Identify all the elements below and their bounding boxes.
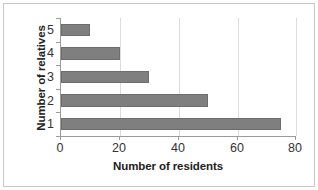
y-tick-label: 5 <box>40 18 57 42</box>
x-tick-label: 0 <box>40 141 80 155</box>
bar-band-3 <box>61 65 296 89</box>
y-tick-label: 1 <box>40 112 57 136</box>
x-tick-label: 40 <box>158 141 198 155</box>
x-tick-mark-0 <box>60 136 61 140</box>
bar-band-4 <box>61 42 296 66</box>
bar-category-2 <box>61 94 208 106</box>
bar-band-1 <box>61 112 296 136</box>
bar-series <box>61 18 296 136</box>
bar-band-2 <box>61 89 296 113</box>
y-tick-label: 4 <box>40 42 57 66</box>
bar-category-5 <box>61 24 90 36</box>
gridline-80 <box>296 18 297 136</box>
x-tick-label: 20 <box>99 141 139 155</box>
x-axis-title: Number of residents <box>40 160 296 172</box>
bar-category-4 <box>61 47 120 59</box>
x-tick-mark-20 <box>119 136 120 140</box>
x-tick-mark-80 <box>295 136 296 140</box>
x-tick-mark-40 <box>178 136 179 140</box>
x-tick-label: 80 <box>275 141 315 155</box>
y-tick-label: 2 <box>40 89 57 113</box>
bar-band-5 <box>61 18 296 42</box>
y-axis-tick-labels: 5 4 3 2 1 <box>40 18 57 136</box>
x-tick-mark-60 <box>237 136 238 140</box>
x-tick-label: 60 <box>217 141 257 155</box>
bar-chart-figure: Number of relatives 5 4 3 2 1 <box>0 0 318 190</box>
y-tick-label: 3 <box>40 65 57 89</box>
plot-area <box>60 18 296 136</box>
bar-category-3 <box>61 71 149 83</box>
bar-category-1 <box>61 118 281 130</box>
